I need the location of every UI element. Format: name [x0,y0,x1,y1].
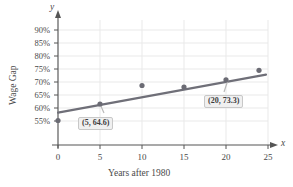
annotation-callout: (20, 73.3) [204,95,243,108]
data-point [97,101,102,106]
chart-figure: 90% 85% 80% 75% 70% 65% 60% 55% 0 5 10 1… [0,0,293,187]
y-tick-label: 80% [10,51,50,61]
x-tick-label: 10 [132,152,152,162]
x-axis [52,142,278,149]
x-tick-label: 20 [216,152,236,162]
y-tick-label: 85% [10,38,50,48]
x-tick-label: 5 [90,152,110,162]
x-axis-name: x [281,138,285,148]
data-point [55,118,60,123]
data-point [223,77,228,82]
data-point [181,84,186,89]
y-axis-title: Wage Gap [8,65,18,105]
x-tick-label: 0 [48,152,68,162]
y-axis [54,10,61,148]
x-tick-label: 15 [174,152,194,162]
x-axis-title: Years after 1980 [108,168,170,178]
data-point [256,68,261,73]
annotation-callout: (5, 64.6) [78,117,113,130]
x-tick-label: 25 [258,152,278,162]
y-axis-name: y [50,2,54,12]
data-point [139,83,144,88]
y-tick-label: 55% [10,116,50,126]
y-tick-label: 90% [10,25,50,35]
